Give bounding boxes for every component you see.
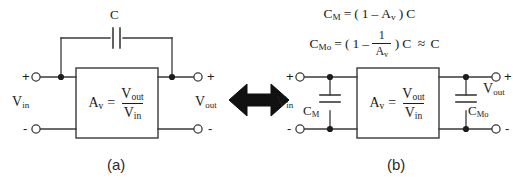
terminal-output-minus-a xyxy=(194,125,202,133)
junction-dot-input-bottom-b xyxy=(327,126,333,132)
eq2-one: 1 xyxy=(352,36,359,52)
input-minus-sign-b: - xyxy=(287,122,291,135)
terminal-input-plus-b xyxy=(296,73,304,81)
vout-sub-b: out xyxy=(493,87,505,97)
gain-equals-a: = xyxy=(107,95,115,111)
eq1-equals: = xyxy=(344,6,352,22)
eq1-open-paren: ( xyxy=(354,6,359,22)
input-capacitor-label-b: CM xyxy=(303,104,319,117)
gain-formula-b: Av = Vout Vin xyxy=(357,68,439,138)
input-voltage-label-b: Vin xyxy=(276,95,293,109)
vin-sub-a: in xyxy=(22,100,29,110)
vout-sub-a: out xyxy=(205,100,217,110)
eq2-minus: – xyxy=(362,36,369,52)
terminal-output-plus-b xyxy=(492,73,500,81)
eq2-approx-cap: C xyxy=(431,36,440,52)
input-minus-sign-a: - xyxy=(23,122,27,135)
output-minus-sign-a: - xyxy=(208,122,212,135)
vin-base-a: V xyxy=(12,94,22,109)
gain-lhs-a: Av xyxy=(88,95,103,111)
gain-lhs-b: Av xyxy=(369,95,384,111)
cm-label-sub: M xyxy=(312,109,320,119)
input-plus-sign-a: + xyxy=(22,70,30,83)
caption-a: (a) xyxy=(107,157,125,172)
figure-canvas: C + - Vin + - Vout Av = Vout Vin (a) CM … xyxy=(0,0,513,185)
input-voltage-label-a: Vin xyxy=(12,95,29,109)
gain-denominator-b: Vin xyxy=(403,103,425,121)
gain-numerator-a: Vout xyxy=(119,86,145,103)
gain-numerator-b: Vout xyxy=(400,86,426,103)
gain-fraction-b: Vout Vin xyxy=(400,86,426,121)
eq2-approx: ≈ xyxy=(418,36,425,52)
miller-equations: CM = ( 1 – Av ) C CMo = ( 1 – 1 Av ) C ≈… xyxy=(308,6,441,59)
eq2-close-paren: ) xyxy=(395,36,400,52)
eq2-cap: C xyxy=(402,36,411,52)
eq1-close-paren: ) xyxy=(399,6,404,22)
output-plus-sign-b: + xyxy=(504,70,512,83)
vin-base-b: V xyxy=(276,94,286,109)
terminal-input-minus-b xyxy=(296,125,304,133)
cmo-label-base: C xyxy=(468,103,477,118)
terminal-output-plus-a xyxy=(194,73,202,81)
eq2-equals: = xyxy=(334,36,342,52)
caption-b: (b) xyxy=(387,157,405,172)
output-minus-sign-b: - xyxy=(505,122,509,135)
junction-dot-input-a xyxy=(58,74,64,80)
output-voltage-label-a: Vout xyxy=(195,95,217,109)
eq1-minus: – xyxy=(372,6,379,22)
eq2-fraction-denominator: Av xyxy=(372,43,391,59)
gain-denominator-a: Vin xyxy=(122,103,144,121)
cm-symbol: CM xyxy=(324,6,341,22)
gain-fraction-a: Vout Vin xyxy=(119,86,145,121)
feedback-capacitor-label-a: C xyxy=(110,8,119,21)
cmo-symbol: CMo xyxy=(310,36,332,52)
vout-base-b: V xyxy=(483,81,493,96)
miller-equation-line-2: CMo = ( 1 – 1 Av ) C ≈ C xyxy=(308,28,441,59)
eq1-one: 1 xyxy=(362,6,369,22)
terminal-input-minus-a xyxy=(32,125,40,133)
terminal-output-minus-b xyxy=(492,125,500,133)
gain-equals-b: = xyxy=(388,95,396,111)
input-plus-sign-b: + xyxy=(286,70,294,83)
cm-label-base: C xyxy=(303,103,312,118)
junction-dot-input-top-b xyxy=(327,74,333,80)
eq2-fraction: 1 Av xyxy=(372,28,391,59)
cmo-label-sub: Mo xyxy=(477,109,489,119)
miller-equation-line-1: CM = ( 1 – Av ) C xyxy=(322,6,441,22)
output-plus-sign-a: + xyxy=(207,70,215,83)
eq2-fraction-numerator: 1 xyxy=(376,28,388,43)
junction-dot-output-a xyxy=(169,74,175,80)
terminal-input-plus-a xyxy=(32,73,40,81)
vin-sub-b: in xyxy=(286,100,293,110)
output-capacitor-label-b: CMo xyxy=(468,104,488,117)
vout-base-a: V xyxy=(195,94,205,109)
eq1-cap: C xyxy=(406,6,415,22)
output-voltage-label-b: Vout xyxy=(483,82,505,96)
junction-dot-output-top-b xyxy=(463,74,469,80)
eq2-open-paren: ( xyxy=(345,36,350,52)
gain-formula-a: Av = Vout Vin xyxy=(76,68,158,138)
junction-dot-output-bottom-b xyxy=(463,126,469,132)
eq1-gain: Av xyxy=(381,6,395,22)
